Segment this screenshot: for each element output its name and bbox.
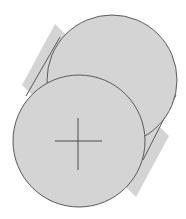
cylinder-body xyxy=(13,15,177,207)
cylinder-diagram xyxy=(0,0,186,219)
